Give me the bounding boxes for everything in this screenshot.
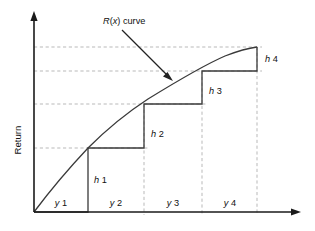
y3-index: 3 — [171, 198, 179, 208]
segment-labels: y 1 y 2 y 3 y 4 — [54, 198, 236, 208]
y2-index: 2 — [114, 198, 122, 208]
x-axis-arrowhead — [291, 208, 301, 215]
return-curve — [34, 47, 257, 212]
segment-label-y1: y 1 — [54, 198, 67, 208]
h3-index: 3 — [214, 86, 222, 96]
diagram-canvas: Return R(x) curve h 1 h 2 h 3 h 4 y 1 y … — [0, 0, 315, 231]
horizontal-gridlines — [34, 47, 262, 148]
return-curve-figure: Return R(x) curve h 1 h 2 h 3 h 4 y 1 y … — [0, 0, 315, 231]
curve-path — [34, 47, 257, 212]
y4-index: 4 — [228, 198, 236, 208]
height-label-h2: h 2 — [151, 129, 164, 139]
height-label-h3: h 3 — [209, 86, 222, 96]
height-labels: h 1 h 2 h 3 h 4 — [94, 54, 278, 185]
curve-callout-arrowhead — [163, 72, 173, 81]
curve-label: R(x) curve — [103, 16, 145, 26]
y-axis-label: Return — [12, 126, 23, 155]
curve-label-suffix: curve — [120, 16, 145, 26]
h1-index: 1 — [99, 175, 107, 185]
segment-label-y3: y 3 — [166, 198, 179, 208]
segment-label-y4: y 4 — [223, 198, 236, 208]
step-path — [34, 47, 257, 212]
height-label-h4: h 4 — [265, 54, 278, 64]
curve-callout — [122, 30, 173, 81]
curve-callout-leader-line — [122, 30, 168, 76]
step-function — [34, 47, 257, 212]
h4-index: 4 — [270, 54, 278, 64]
y-axis-arrowhead — [30, 11, 37, 21]
height-label-h1: h 1 — [94, 175, 107, 185]
segment-label-y2: y 2 — [109, 198, 122, 208]
h2-index: 2 — [156, 129, 164, 139]
axes — [30, 11, 301, 216]
y1-index: 1 — [59, 198, 67, 208]
